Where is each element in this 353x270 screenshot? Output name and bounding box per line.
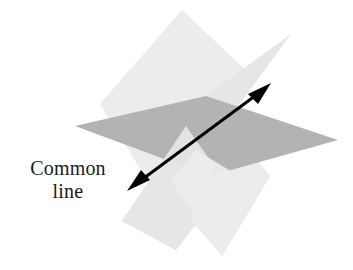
figure-container: Common line	[0, 0, 353, 270]
common-line-label-line2: line	[53, 180, 84, 202]
plane-intersection-diagram: Common line	[0, 0, 353, 270]
common-line-label-line1: Common	[30, 157, 106, 179]
